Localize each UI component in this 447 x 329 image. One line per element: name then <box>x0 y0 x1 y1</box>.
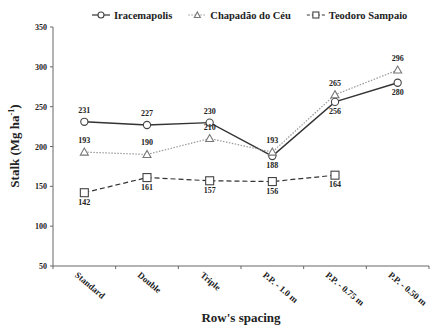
square-marker-icon <box>313 12 319 18</box>
legend: IracemapolisChapadão do CéuTeodoro Sampa… <box>92 10 407 21</box>
triangle-marker-icon <box>80 148 88 155</box>
x-category-label: P.P. - 1.0 m <box>261 270 300 305</box>
data-label: 142 <box>78 198 90 207</box>
square-marker-icon <box>206 177 214 185</box>
data-label: 193 <box>266 136 278 145</box>
y-tick-label: 50 <box>39 262 47 271</box>
data-label: 231 <box>78 106 90 115</box>
square-marker-icon <box>143 174 151 182</box>
triangle-marker-icon <box>194 12 200 18</box>
data-label: 210 <box>204 123 216 132</box>
legend-label: Iracemapolis <box>114 10 172 21</box>
data-label: 164 <box>329 180 341 189</box>
series-line-1 <box>84 70 397 154</box>
data-label: 227 <box>141 109 153 118</box>
y-tick-label: 250 <box>35 103 47 112</box>
data-label: 256 <box>329 107 341 116</box>
data-label: 280 <box>392 88 404 97</box>
circle-marker-icon <box>143 121 150 128</box>
data-labels: 2312272301882562801931902101932652961421… <box>78 54 403 207</box>
y-axis-title: Stalk (Mg ha-1) <box>7 104 22 187</box>
data-label: 193 <box>78 136 90 145</box>
square-marker-icon <box>268 178 276 186</box>
x-category-label: P.P. - 0.75 m <box>324 270 367 308</box>
data-label: 265 <box>329 79 341 88</box>
data-label: 188 <box>266 161 278 170</box>
data-label: 161 <box>141 183 153 192</box>
x-category-label: Triple <box>198 270 222 293</box>
y-tick-label: 100 <box>35 222 47 231</box>
y-tick-label: 150 <box>35 182 47 191</box>
x-category-label: Double <box>136 270 164 295</box>
circle-marker-icon <box>98 12 104 18</box>
legend-label: Teodoro Sampaio <box>329 10 407 21</box>
circle-marker-icon <box>331 98 338 105</box>
x-category-label: Standard <box>73 270 107 301</box>
y-tick-label: 300 <box>35 63 47 72</box>
data-label: 156 <box>266 187 278 196</box>
legend-label: Chapadão do Céu <box>210 10 291 21</box>
triangle-marker-icon <box>206 135 214 142</box>
axes: 50100150200250300350StandardDoubleTriple… <box>35 23 429 308</box>
data-label: 230 <box>204 107 216 116</box>
square-marker-icon <box>331 171 339 179</box>
circle-marker-icon <box>394 79 401 86</box>
square-marker-icon <box>80 189 88 197</box>
triangle-marker-icon <box>394 66 402 73</box>
line-chart: IracemapolisChapadão do CéuTeodoro Sampa… <box>0 0 447 329</box>
data-label: 157 <box>204 186 216 195</box>
triangle-marker-icon <box>143 150 151 157</box>
x-category-label: P.P. - 0.50 m <box>386 270 429 308</box>
data-label: 190 <box>141 138 153 147</box>
x-axis-title: Row's spacing <box>201 310 281 325</box>
y-tick-label: 200 <box>35 143 47 152</box>
circle-marker-icon <box>81 118 88 125</box>
y-tick-label: 350 <box>35 23 47 32</box>
data-label: 296 <box>392 54 404 63</box>
series-group <box>80 66 401 197</box>
